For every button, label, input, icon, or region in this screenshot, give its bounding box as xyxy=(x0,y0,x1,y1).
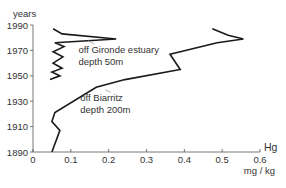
annotation-label: depth 50m xyxy=(78,56,123,67)
x-tick-label: 0.5 xyxy=(216,154,229,165)
x-tick-label: 0.6 xyxy=(253,154,266,165)
x-tick-label: 0 xyxy=(30,154,35,165)
y-ticks: 189019101930195019701990 xyxy=(7,20,33,158)
x-axis-label: Hg xyxy=(264,141,278,153)
x-tick-label: 0.4 xyxy=(178,154,191,165)
x-axis-unit: mg / kg xyxy=(244,165,275,176)
annotation-label: off Gironde estuary xyxy=(78,44,159,55)
annotation-label: off Biarritz xyxy=(80,92,123,103)
annotations: off Gironde estuarydepth 50moff Biarritz… xyxy=(78,40,159,115)
chart: 189019101930195019701990 00.10.20.30.40.… xyxy=(0,0,286,188)
x-ticks: 00.10.20.30.40.50.6 xyxy=(30,149,266,165)
annotation-label: depth 200m xyxy=(80,104,130,115)
y-axis-label: years xyxy=(13,8,36,19)
x-tick-label: 0.3 xyxy=(140,154,153,165)
y-tick-label: 1970 xyxy=(7,45,28,56)
y-tick-label: 1950 xyxy=(7,70,28,81)
y-tick-label: 1990 xyxy=(7,20,28,31)
x-tick-label: 0.2 xyxy=(102,154,115,165)
y-tick-label: 1890 xyxy=(7,147,28,158)
y-tick-label: 1910 xyxy=(7,121,28,132)
y-tick-label: 1930 xyxy=(7,96,28,107)
x-tick-label: 0.1 xyxy=(64,154,77,165)
